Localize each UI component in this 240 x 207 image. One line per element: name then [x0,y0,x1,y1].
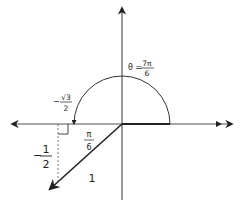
reference-angle-label: π 6 [84,130,94,152]
radius-label: 1 [89,172,96,185]
x-coordinate-label: − √3 2 [53,93,72,113]
y-coordinate-label: − 1 2 [33,143,52,171]
x-coordinate-sign: − [53,97,60,106]
y-coordinate-sign: − [33,149,42,162]
right-angle-marker [58,124,68,134]
y-coordinate-numerator: 1 [43,143,50,156]
reference-angle-denominator: 6 [86,143,91,152]
theta-label: θ = 7π 6 [128,59,154,78]
theta-denominator: 6 [145,69,150,78]
x-axis-secondary-arrow-icon [216,121,222,127]
reference-angle-numerator: π [87,130,92,139]
x-coordinate-numerator: √3 [61,93,71,102]
unit-circle-diagram: θ = 7π 6 − √3 2 π 6 − 1 2 1 [0,0,240,207]
theta-numerator: 7π [142,59,152,68]
theta-prefix: θ = [128,63,142,72]
y-coordinate-denominator: 2 [43,158,50,171]
x-coordinate-denominator: 2 [64,104,69,113]
